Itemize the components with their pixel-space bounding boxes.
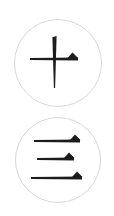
badge-three-lines[interactable]: Three horizontal strokes glyph badge — [15, 117, 101, 203]
badge-cross-stroke[interactable]: Cross stroke glyph badge — [14, 19, 102, 107]
canvas-root: Cross stroke glyph badge Three horizonta… — [0, 0, 114, 216]
badge-three-lines-artwork — [15, 117, 101, 203]
badge-cross-stroke-ring — [15, 20, 102, 107]
badge-cross-stroke-artwork — [14, 19, 102, 107]
